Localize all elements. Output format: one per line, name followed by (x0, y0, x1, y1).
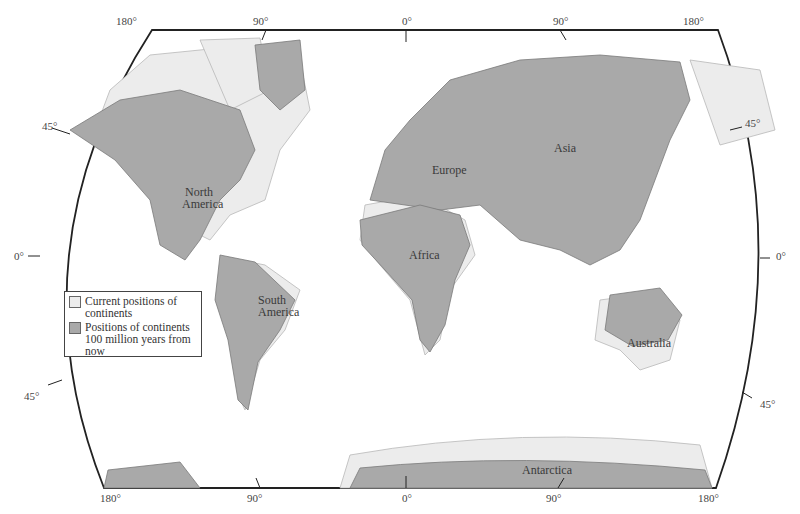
label-north-america-line2: America (182, 197, 224, 211)
top-tick-90-west: 90° (253, 15, 268, 27)
bottom-tick-180-west: 180° (100, 492, 121, 504)
label-south-america-line2: America (258, 305, 300, 319)
top-tick-180-west: 180° (116, 15, 137, 27)
bottom-tick-90-west: 90° (247, 492, 262, 504)
label-asia: Asia (554, 141, 577, 155)
label-europe: Europe (432, 163, 467, 177)
bottom-tick-180-east: 180° (698, 492, 719, 504)
top-tick-180-east: 180° (683, 15, 704, 27)
right-tick-45-north: 45° (745, 117, 760, 129)
left-tick-45-south: 45° (24, 390, 39, 402)
right-tick-45-south: 45° (760, 398, 775, 410)
top-tick-90-east: 90° (553, 15, 568, 27)
right-tick-0: 0° (776, 250, 786, 262)
legend-label-future: Positions of continents 100 million year… (85, 321, 197, 357)
legend-swatch-current (69, 296, 81, 308)
bottom-tick-90-east: 90° (546, 492, 561, 504)
legend-item-future: Positions of continents 100 million year… (69, 321, 197, 357)
label-africa: Africa (409, 248, 440, 262)
bottom-tick-0: 0° (402, 492, 412, 504)
map-legend: Current positions of continents Position… (64, 291, 202, 357)
label-australia: Australia (627, 336, 672, 350)
left-tick-0: 0° (14, 250, 24, 262)
label-antarctica: Antarctica (522, 463, 573, 477)
top-tick-0: 0° (402, 15, 412, 27)
left-tick-45-north: 45° (42, 120, 57, 132)
legend-label-current: Current positions of continents (85, 295, 197, 319)
legend-item-current: Current positions of continents (69, 295, 197, 319)
future-positions-layer (70, 40, 712, 488)
legend-swatch-future (69, 322, 81, 334)
world-map: 180° 90° 0° 90° 180° 180° 90° 0° 90° 180… (0, 0, 800, 514)
